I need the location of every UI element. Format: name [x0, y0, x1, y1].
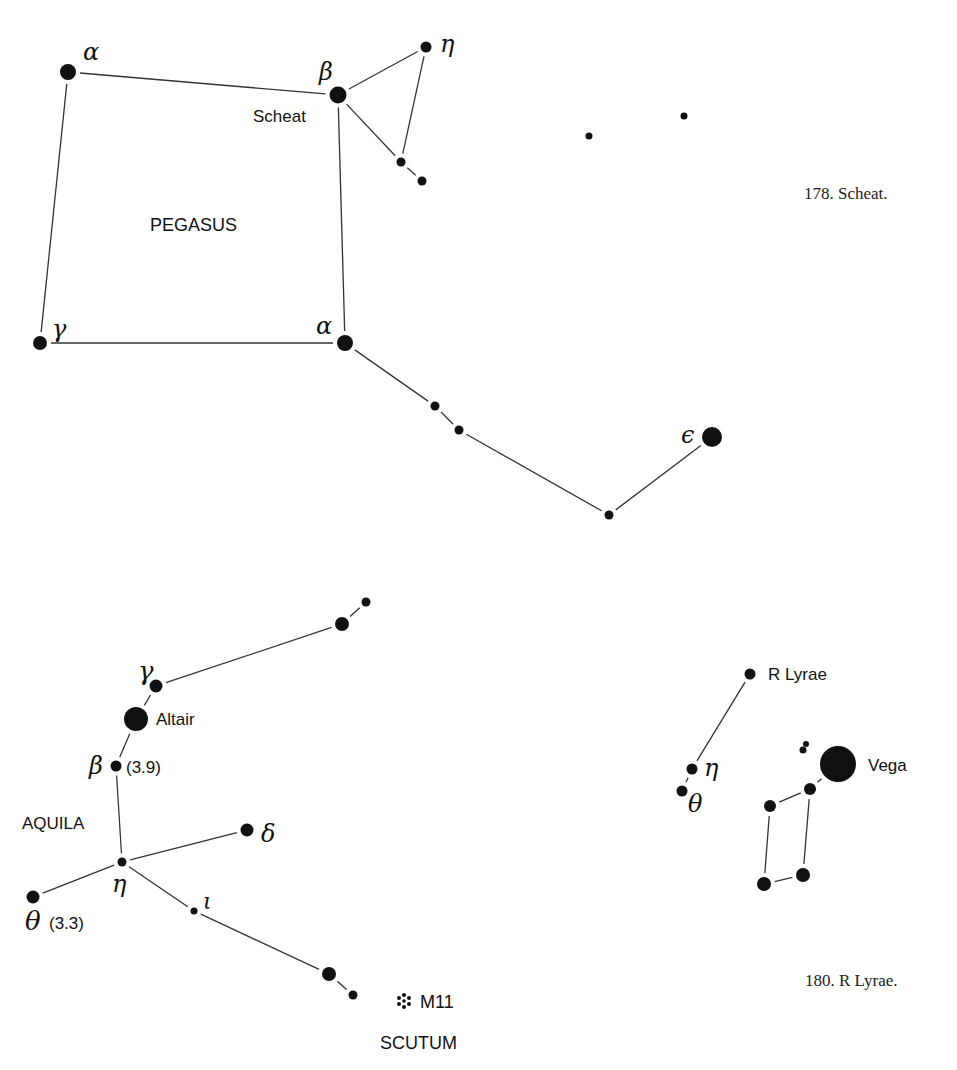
lyra-star-epsilon-b — [803, 741, 809, 747]
lyra-star-r-lyrae — [745, 669, 756, 680]
aquila-line-eta-delta — [130, 833, 237, 860]
lyra-line-r-lyrae-eta — [697, 682, 745, 761]
lyra-vega-label: Vega — [868, 756, 907, 775]
pegasus-star-eta — [421, 42, 432, 53]
pegasus-star-pi-2 — [418, 177, 427, 186]
lyra-star-epsilon — [800, 747, 807, 754]
aquila-line-iota-lambda — [201, 914, 319, 969]
lyra-line-gamma-beta — [775, 877, 793, 881]
lyra-eta-label: η — [704, 754, 719, 782]
aquila-line-eta-iota — [129, 867, 188, 907]
aquila-star-alpha — [124, 707, 148, 731]
lyra-star-eta — [687, 764, 698, 775]
lyra-star-zeta — [804, 783, 816, 795]
aquila-beta-label: β — [88, 752, 103, 780]
aquila-line-alpha-beta — [120, 734, 130, 758]
pegasus-star-gamma — [33, 336, 47, 350]
aquila-star-lambda — [322, 967, 336, 981]
aquila-altair-label: Altair — [156, 710, 195, 729]
pegasus-star-f1 — [586, 133, 593, 140]
lyra-theta-label: θ — [688, 790, 703, 818]
aquila-line-lambda-l2 — [337, 981, 346, 989]
aquila-star-a2 — [335, 617, 349, 631]
pegasus-star-pi-1 — [397, 158, 406, 167]
aquila-star-eta — [118, 858, 127, 867]
pegasus-line-s1-s2 — [441, 412, 453, 424]
constellation-lines — [41, 52, 821, 990]
pegasus-beta-label: β — [318, 58, 333, 86]
pegasus-line-s2-s3 — [466, 434, 601, 511]
aquila-iota-label: ι — [203, 889, 212, 914]
aquila-star-iota — [191, 908, 198, 915]
pegasus-constellation-label: PEGASUS — [150, 215, 237, 235]
constellation-stars — [27, 42, 857, 1000]
pegasus-gamma-label: γ — [52, 315, 67, 343]
star-cluster-icon — [397, 993, 411, 1009]
pegasus-star-f2 — [681, 113, 688, 120]
aquila-line-a1-a2 — [350, 608, 360, 617]
m11-label: M11 — [420, 992, 454, 1012]
pegasus-line-beta-alpha — [338, 107, 344, 331]
pegasus-star-epsilon — [702, 427, 722, 447]
lyra-star-beta — [796, 868, 810, 882]
pegasus-line-eta-pi-1 — [403, 56, 424, 153]
aquila-star-theta — [27, 891, 40, 904]
lyra-r-lyrae-label: R Lyrae — [768, 665, 827, 684]
pegasus-star-alpha — [337, 335, 353, 351]
aquila-eta-label: η — [112, 870, 127, 898]
pegasus-line-pi-1-pi-2 — [407, 168, 415, 176]
aquila-theta-magnitude: (3.3) — [49, 914, 84, 933]
pegasus-line-s3-epsilon — [616, 445, 701, 509]
star-chart: α β Scheat η PEGASUS γ α ϵ 178. Scheat. … — [0, 0, 957, 1070]
pegasus-star-alpha-nw — [60, 64, 76, 80]
pegasus-star-s2 — [455, 426, 464, 435]
aquila-constellation-label: AQUILA — [22, 814, 85, 833]
aquila-line-eta-theta — [43, 865, 114, 893]
aquila-line-beta-eta — [117, 775, 122, 853]
pegasus-line-alpha-nw-beta — [80, 73, 326, 94]
pegasus-star-s1 — [431, 402, 440, 411]
pegasus-epsilon-label: ϵ — [681, 421, 694, 449]
aquila-beta-magnitude: (3.9) — [126, 758, 161, 777]
pegasus-line-alpha-nw-gamma — [41, 84, 67, 332]
aquila-star-delta — [241, 824, 254, 837]
aquila-star-beta — [111, 761, 122, 772]
pegasus-alpha-nw-label: α — [83, 38, 99, 66]
pegasus-eta-label: η — [440, 30, 455, 58]
pegasus-scheat-label: Scheat — [253, 107, 306, 126]
aquila-star-l2 — [349, 991, 358, 1000]
pegasus-line-beta-pi-1 — [347, 104, 396, 156]
figure-caption-178: 178. Scheat. — [804, 184, 888, 203]
pegasus-star-beta — [330, 87, 347, 104]
aquila-gamma-label: γ — [138, 656, 154, 686]
pegasus-alpha-label: α — [316, 312, 332, 340]
lyra-star-theta — [677, 786, 688, 797]
lyra-line-vega-zeta — [817, 779, 821, 783]
aquila-line-gamma-alpha — [144, 695, 150, 705]
lyra-star-vega — [820, 746, 856, 782]
lyra-line-zeta-delta — [779, 793, 801, 802]
pegasus-star-s3 — [605, 511, 614, 520]
lyra-line-zeta-beta — [804, 799, 809, 864]
scutum-constellation-label: SCUTUM — [380, 1033, 457, 1053]
lyra-star-delta — [764, 800, 776, 812]
aquila-line-a2-gamma — [166, 627, 332, 682]
pegasus-line-beta-eta — [349, 52, 418, 89]
lyra-line-eta-theta — [686, 778, 688, 783]
lyra-line-delta-gamma — [765, 816, 769, 873]
pegasus-line-alpha-s1 — [355, 350, 428, 401]
aquila-star-a1 — [362, 598, 371, 607]
aquila-delta-label: δ — [261, 820, 275, 848]
figure-caption-180: 180. R Lyrae. — [805, 971, 898, 990]
aquila-theta-label: θ — [25, 906, 41, 936]
lyra-star-gamma — [757, 877, 771, 891]
